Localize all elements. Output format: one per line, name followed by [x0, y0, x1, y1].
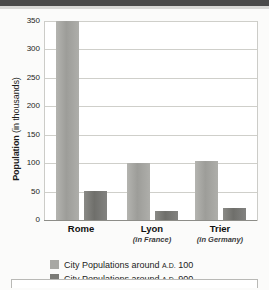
- category-name: Rome: [44, 223, 118, 235]
- y-tick-label: 100: [14, 158, 40, 167]
- bar-rome-series-2: [84, 191, 107, 220]
- bar-lyon-series-2: [155, 211, 178, 220]
- category-name: Lyon: [115, 223, 189, 235]
- legend-label: City Populations around A.D. 100: [64, 260, 193, 270]
- x-axis-category-labels: RomeLyon(in France)Trier(in Germany): [44, 223, 256, 253]
- bar-lyon-series-1: [127, 163, 150, 220]
- y-tick-label: 150: [14, 130, 40, 139]
- y-tick-label: 200: [14, 101, 40, 110]
- figure-bottom-frame: [11, 279, 258, 288]
- legend-item-1: City Populations around A.D. 100: [50, 258, 250, 271]
- legend-label-era: A.D.: [162, 262, 176, 269]
- category-label-lyon: Lyon(in France): [115, 223, 189, 245]
- legend-swatch-icon: [50, 260, 59, 269]
- y-tick-label: 350: [14, 16, 40, 25]
- category-label-rome: Rome: [44, 223, 118, 235]
- category-sublabel: (in France): [115, 235, 189, 245]
- category-sublabel: (in Germany): [183, 235, 257, 245]
- bars-layer: [44, 21, 256, 220]
- y-tick-label: 300: [14, 44, 40, 53]
- y-tick-label: 0: [14, 215, 40, 224]
- y-axis-tick-labels: 350300250200150100500: [10, 21, 40, 220]
- y-tick-label: 50: [14, 187, 40, 196]
- category-label-trier: Trier(in Germany): [183, 223, 257, 245]
- bar-trier-series-1: [195, 161, 218, 220]
- y-tick-label: 250: [14, 73, 40, 82]
- bar-rome-series-1: [56, 21, 79, 220]
- x-axis-line: [44, 220, 257, 221]
- category-name: Trier: [183, 223, 257, 235]
- bar-chart-figure: Population (in thousands) 35030025020015…: [0, 9, 269, 281]
- bar-trier-series-2: [223, 208, 246, 220]
